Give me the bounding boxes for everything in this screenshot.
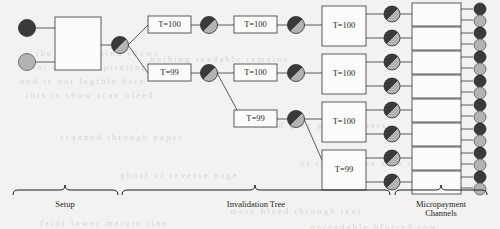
brace-setup [13,185,118,195]
channel-split-circle-3 [384,78,400,94]
tree-level1-circle-1 [201,65,218,82]
setup-party-b-circle [19,54,36,71]
channel-output-dark-0 [474,3,486,15]
tree-level2-circle-2 [288,111,305,128]
brace-label-invalidation-tree: Invalidation Tree [227,199,286,209]
channel-box-2 [412,51,461,74]
channel-output-dark-4 [474,99,486,111]
channel-output-light-7 [474,183,486,195]
setup-box [55,17,101,70]
channel-box-0 [412,3,461,26]
channel-split-circle-5 [384,126,400,142]
tree-level2-label-2: T=99 [246,113,265,123]
channel-output-light-6 [474,159,486,171]
tree-level3-node-1: T=100 [322,54,366,94]
figure-container: the page behind showsfaint reversed prin… [0,0,500,229]
channel-split-circle-6 [384,150,400,166]
channel-split-circle-0 [384,6,400,22]
channel-box-3 [412,75,461,98]
diagram-svg: T=100 T=99 T=100 [0,0,500,229]
channel-output-light-2 [474,63,486,75]
channel-output-dark-6 [474,147,486,159]
tree-level2-node-1: T=100 [234,64,277,81]
channel-box-4 [412,99,461,122]
tree-level2-circle-1 [288,65,305,82]
tree-level3-label-2: T=100 [333,116,356,126]
channel-output-light-4 [474,111,486,123]
channel-split-circle-4 [384,102,400,118]
channel-output-dark-7 [474,171,486,183]
brace-label-setup: Setup [55,199,74,209]
channel-output-dark-2 [474,51,486,63]
channel-output-light-5 [474,135,486,147]
channel-box-1 [412,27,461,50]
tree-level3-label-3: T=99 [335,164,354,174]
brace-label-micropayment-line2: Channels [425,208,457,218]
channel-output-light-1 [474,39,486,51]
tree-level2-circle-0 [288,17,305,34]
tree-level3-label-1: T=100 [333,68,356,78]
channel-split-circle-7 [384,174,400,190]
tree-level2-label-0: T=100 [244,19,267,29]
channel-box-6 [412,147,461,170]
tree-level1-node-1: T=99 [148,64,191,81]
channel-split-circle-1 [384,30,400,46]
channel-output-dark-3 [474,75,486,87]
tree-level1-label-0: T=100 [158,19,181,29]
setup-party-a-circle [19,20,36,37]
channel-output-light-3 [474,87,486,99]
channel-output-dark-1 [474,27,486,39]
tree-level2-label-1: T=100 [244,67,267,77]
channel-output-dark-5 [474,123,486,135]
channel-box-5 [412,123,461,146]
tree-level1-node-0: T=100 [148,16,191,33]
tree-level3-node-0: T=100 [322,6,366,46]
channel-output-light-0 [474,15,486,27]
tree-level3-label-0: T=100 [333,20,356,30]
tree-level1-label-1: T=99 [160,67,179,77]
tree-level2-node-2: T=99 [234,110,277,127]
tree-level1-circle-0 [201,17,218,34]
tree-level3-node-3: T=99 [322,150,366,190]
root-split-circle [112,37,129,54]
tree-level2-node-0: T=100 [234,16,277,33]
channel-box-7 [412,171,461,194]
tree-level3-node-2: T=100 [322,102,366,142]
channel-split-circle-2 [384,54,400,70]
